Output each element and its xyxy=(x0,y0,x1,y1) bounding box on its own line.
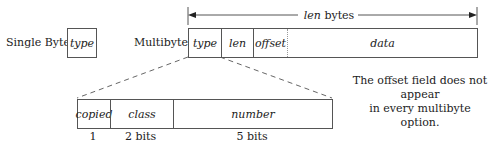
multibyte-box: type len offset data xyxy=(188,28,478,58)
multibyte-data-field: data xyxy=(287,29,477,57)
note-line-1: The offset field does not appear xyxy=(352,74,488,102)
length-label-bytes: bytes xyxy=(321,9,354,22)
length-label: len bytes xyxy=(300,9,358,22)
length-label-len: len xyxy=(304,9,321,22)
note-line-2: in every multibyte option. xyxy=(352,102,488,130)
multibyte-len-field: len xyxy=(221,29,253,57)
offset-note: The offset field does not appear in ever… xyxy=(352,74,488,130)
class-size: 2 bits xyxy=(109,130,172,143)
multibyte-type-field: type xyxy=(189,29,221,57)
copied-field: copied xyxy=(78,100,110,128)
number-field: number xyxy=(173,100,332,128)
number-size: 5 bits xyxy=(172,130,332,143)
class-field: class xyxy=(110,100,173,128)
copied-size: 1 xyxy=(77,130,109,143)
multibyte-offset-field: offset xyxy=(253,29,287,57)
type-breakdown-box: copied class number xyxy=(77,99,333,129)
